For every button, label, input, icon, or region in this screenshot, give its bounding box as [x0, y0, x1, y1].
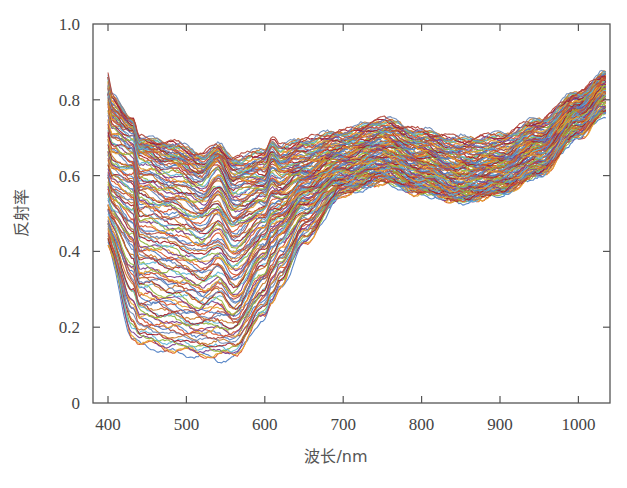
reflectance-curves: [108, 70, 606, 363]
x-tick-label: 600: [252, 415, 278, 434]
y-tick-label: 0.8: [59, 91, 80, 110]
y-tick-label: 0.6: [59, 167, 80, 186]
y-axis-ticks: 00.20.40.60.81.0: [59, 15, 610, 413]
x-tick-label: 1000: [561, 415, 595, 434]
y-tick-label: 1.0: [59, 15, 80, 34]
x-tick-label: 400: [95, 415, 121, 434]
y-tick-label: 0.4: [59, 242, 81, 261]
y-tick-label: 0: [72, 394, 81, 413]
x-tick-label: 500: [174, 415, 200, 434]
y-tick-label: 0.2: [59, 318, 80, 337]
spectral-reflectance-chart: 4005006007008009001000 00.20.40.60.81.0 …: [0, 0, 627, 488]
x-axis-title: 波长/nm: [304, 447, 367, 466]
reflectance-curve: [108, 95, 606, 287]
x-tick-label: 800: [409, 415, 435, 434]
x-tick-label: 900: [487, 415, 513, 434]
x-tick-label: 700: [330, 415, 356, 434]
y-axis-title: 反射率: [12, 189, 31, 237]
